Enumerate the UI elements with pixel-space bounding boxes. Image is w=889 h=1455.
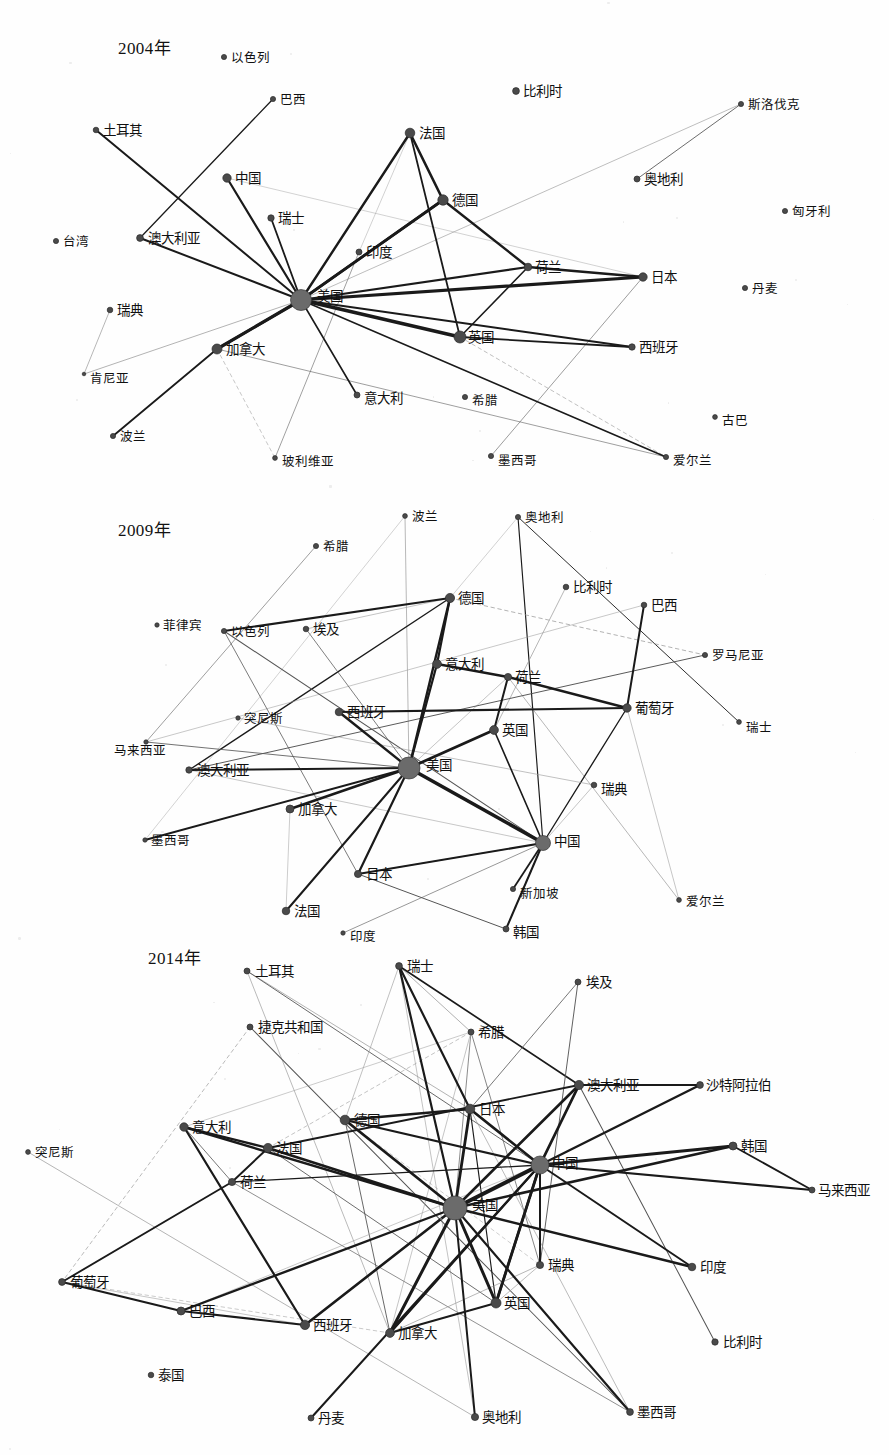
- network-node[interactable]: [782, 208, 787, 213]
- network-node[interactable]: [536, 1261, 543, 1268]
- network-node[interactable]: [742, 285, 747, 290]
- network-node[interactable]: [513, 88, 520, 95]
- network-node[interactable]: [465, 1104, 475, 1114]
- network-node[interactable]: [244, 968, 250, 974]
- network-edge: [359, 133, 410, 252]
- network-node[interactable]: [575, 979, 581, 985]
- network-node[interactable]: [396, 963, 403, 970]
- network-node[interactable]: [641, 602, 647, 608]
- network-node[interactable]: [356, 249, 362, 255]
- network-node[interactable]: [510, 886, 515, 891]
- network-node[interactable]: [405, 128, 415, 138]
- network-node[interactable]: [491, 1298, 501, 1308]
- network-node[interactable]: [221, 628, 226, 633]
- network-node[interactable]: [515, 514, 520, 519]
- network-node[interactable]: [663, 454, 668, 459]
- network-node[interactable]: [490, 726, 499, 735]
- network-node[interactable]: [143, 838, 147, 842]
- network-node[interactable]: [340, 1115, 350, 1125]
- network-node[interactable]: [263, 1143, 272, 1152]
- network-node[interactable]: [110, 433, 115, 438]
- network-node[interactable]: [236, 716, 240, 720]
- network-node[interactable]: [738, 101, 743, 106]
- network-node[interactable]: [688, 1263, 696, 1271]
- network-node[interactable]: [386, 1329, 395, 1338]
- network-node[interactable]: [308, 1415, 314, 1421]
- node-label: 加拿大: [226, 343, 265, 357]
- network-node[interactable]: [454, 331, 466, 343]
- network-node[interactable]: [623, 704, 631, 712]
- network-node[interactable]: [300, 1320, 309, 1329]
- node-label: 爱尔兰: [686, 896, 725, 909]
- network-node[interactable]: [729, 1142, 737, 1150]
- network-node[interactable]: [212, 344, 222, 354]
- network-node[interactable]: [445, 593, 454, 602]
- network-node[interactable]: [634, 176, 640, 182]
- network-node[interactable]: [471, 1413, 478, 1420]
- node-label: 以色列: [231, 626, 270, 639]
- network-node[interactable]: [93, 127, 99, 133]
- network-node[interactable]: [223, 174, 231, 182]
- network-node[interactable]: [702, 652, 707, 657]
- network-node[interactable]: [488, 453, 493, 458]
- network-node[interactable]: [398, 757, 420, 779]
- network-node[interactable]: [438, 195, 448, 205]
- network-edge: [227, 178, 643, 277]
- network-node[interactable]: [82, 372, 86, 376]
- network-node[interactable]: [303, 626, 309, 632]
- network-node[interactable]: [291, 290, 312, 311]
- node-label: 瑞典: [117, 304, 143, 318]
- network-node[interactable]: [462, 394, 467, 399]
- network-node[interactable]: [629, 344, 635, 350]
- scan-speckle: [828, 200, 829, 201]
- node-label: 德国: [354, 1114, 380, 1128]
- network-node[interactable]: [268, 215, 274, 221]
- network-node[interactable]: [335, 708, 343, 716]
- network-node[interactable]: [282, 907, 290, 915]
- network-node[interactable]: [697, 1082, 704, 1089]
- network-node[interactable]: [563, 584, 569, 590]
- network-node[interactable]: [59, 1279, 66, 1286]
- network-node[interactable]: [354, 870, 361, 877]
- network-node[interactable]: [639, 273, 647, 281]
- network-node[interactable]: [433, 660, 442, 669]
- network-node[interactable]: [155, 623, 159, 627]
- network-node[interactable]: [313, 543, 318, 548]
- network-node[interactable]: [137, 235, 144, 242]
- network-node[interactable]: [737, 720, 742, 725]
- network-edge: [450, 517, 518, 598]
- network-node[interactable]: [574, 1080, 583, 1089]
- node-label: 德国: [458, 592, 484, 606]
- network-edge: [140, 238, 301, 300]
- network-node[interactable]: [228, 1178, 235, 1185]
- network-node[interactable]: [403, 514, 408, 519]
- network-edge: [181, 1208, 455, 1311]
- network-node[interactable]: [531, 1156, 549, 1174]
- network-node[interactable]: [221, 54, 226, 59]
- network-node[interactable]: [536, 836, 551, 851]
- network-node[interactable]: [270, 96, 275, 101]
- node-label: 波兰: [412, 511, 438, 524]
- network-node[interactable]: [107, 307, 113, 313]
- network-node[interactable]: [286, 805, 294, 813]
- network-node[interactable]: [247, 1024, 253, 1030]
- network-node[interactable]: [627, 1409, 634, 1416]
- network-node[interactable]: [677, 898, 682, 903]
- network-node[interactable]: [712, 1339, 718, 1345]
- network-node[interactable]: [273, 456, 278, 461]
- network-node[interactable]: [713, 415, 718, 420]
- network-node[interactable]: [809, 1187, 815, 1193]
- network-node[interactable]: [148, 1372, 154, 1378]
- network-node[interactable]: [26, 1150, 31, 1155]
- network-node[interactable]: [186, 767, 192, 773]
- network-node[interactable]: [524, 263, 532, 271]
- network-node[interactable]: [468, 1029, 474, 1035]
- network-node[interactable]: [443, 1196, 467, 1220]
- network-node[interactable]: [180, 1123, 188, 1131]
- network-edge: [275, 252, 359, 458]
- network-node[interactable]: [504, 673, 511, 680]
- network-node[interactable]: [177, 1307, 185, 1315]
- network-node[interactable]: [53, 238, 58, 243]
- network-node[interactable]: [354, 392, 360, 398]
- network-node[interactable]: [591, 782, 597, 788]
